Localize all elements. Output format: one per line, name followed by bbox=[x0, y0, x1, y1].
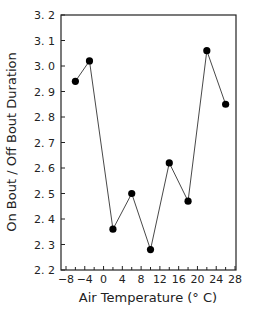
data-series bbox=[72, 47, 229, 253]
y-tick-label: 3. 1 bbox=[34, 35, 55, 48]
x-tick-label: 8 bbox=[138, 273, 145, 286]
x-tick-label: 28 bbox=[228, 273, 242, 286]
y-tick-label: 2. 4 bbox=[34, 213, 55, 226]
y-tick-label: 2. 9 bbox=[34, 86, 55, 99]
y-axis-ticks: 2. 22. 32. 42. 52. 62. 72. 82. 93. 03. 1… bbox=[34, 9, 65, 277]
data-point bbox=[147, 246, 154, 253]
x-tick-label: 20 bbox=[190, 273, 204, 286]
data-point bbox=[203, 47, 210, 54]
x-tick-label: 16 bbox=[172, 273, 186, 286]
x-tick-label: 24 bbox=[209, 273, 223, 286]
data-point bbox=[109, 226, 116, 233]
x-tick-label: −8 bbox=[58, 273, 74, 286]
x-tick-label: 4 bbox=[119, 273, 126, 286]
data-point bbox=[222, 101, 229, 108]
y-tick-label: 2. 6 bbox=[34, 162, 55, 175]
data-point bbox=[128, 190, 135, 197]
y-tick-label: 3. 2 bbox=[34, 9, 55, 22]
y-tick-label: 3. 0 bbox=[34, 60, 55, 73]
x-tick-label: 0 bbox=[100, 273, 107, 286]
series-line bbox=[75, 51, 225, 250]
y-tick-label: 2. 7 bbox=[34, 137, 55, 150]
y-tick-label: 2. 3 bbox=[34, 239, 55, 252]
y-tick-label: 2. 2 bbox=[34, 264, 55, 277]
y-tick-label: 2. 5 bbox=[34, 188, 55, 201]
y-axis-label: On Bout / Off Bout Duration bbox=[4, 52, 19, 232]
line-chart: −8−40481216202428 2. 22. 32. 42. 52. 62.… bbox=[0, 0, 254, 312]
data-point bbox=[86, 57, 93, 64]
data-point bbox=[72, 78, 79, 85]
x-axis-ticks: −8−40481216202428 bbox=[58, 266, 242, 286]
x-axis-label: Air Temperature (° C) bbox=[79, 290, 217, 305]
y-tick-label: 2. 8 bbox=[34, 111, 55, 124]
data-point bbox=[184, 198, 191, 205]
x-tick-label: 12 bbox=[153, 273, 167, 286]
data-point bbox=[166, 159, 173, 166]
x-tick-label: −4 bbox=[77, 273, 93, 286]
plot-frame bbox=[61, 15, 236, 270]
